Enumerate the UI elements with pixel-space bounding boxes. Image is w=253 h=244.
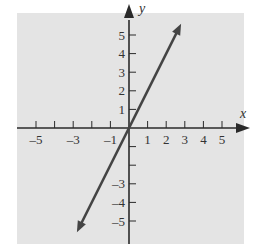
y-tick-label: 5 (119, 28, 126, 43)
y-tick-label: 1 (119, 102, 126, 117)
y-tick-label: –3 (111, 176, 125, 191)
y-axis-label: y (137, 1, 146, 16)
x-axis-label: x (239, 106, 247, 121)
coordinate-plane: –5–3–11234554321–3–4–5 x y (0, 0, 253, 244)
x-tick-label: 5 (219, 132, 226, 147)
y-tick-label: 4 (119, 46, 126, 61)
y-tick-label: 3 (119, 65, 126, 80)
x-tick-label: 2 (163, 132, 170, 147)
y-tick-label: 2 (119, 83, 126, 98)
y-tick-label: –4 (111, 195, 126, 210)
x-tick-label: 1 (144, 132, 151, 147)
x-tick-label: –3 (66, 132, 80, 147)
x-tick-label: –5 (29, 132, 43, 147)
y-axis-arrow-icon (124, 4, 134, 18)
x-tick-label: 4 (200, 132, 207, 147)
y-tick-label: –5 (111, 214, 125, 229)
x-tick-label: 3 (182, 132, 189, 147)
x-tick-label: –1 (103, 132, 117, 147)
